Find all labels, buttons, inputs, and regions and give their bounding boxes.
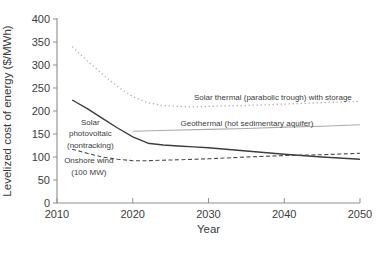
annotation-line: Onshore wind (64, 156, 113, 165)
x-tick-label: 2050 (348, 208, 372, 220)
y-tick-label: 0 (44, 197, 50, 209)
annotation-geothermal-label: Geothermal (hot sedimentary aquifer) (180, 119, 313, 128)
y-tick-label: 300 (32, 59, 50, 71)
annotation-line: Geothermal (hot sedimentary aquifer) (180, 119, 313, 128)
x-tick-label: 2030 (196, 208, 220, 220)
y-tick-label: 100 (32, 151, 50, 163)
annotation-solar-pv-label: Solarphotovoltaic(nontracking) (67, 118, 114, 150)
annotation-line: Solar thermal (parabolic trough) with st… (194, 93, 352, 102)
annotation-onshore-wind-label: Onshore wind(100 MW) (64, 156, 113, 177)
x-tick-label: 2020 (121, 208, 145, 220)
x-axis-title: Year (197, 223, 220, 235)
y-tick-label: 200 (32, 105, 50, 117)
y-axis-title: Levelized cost of energy ($/MWh) (1, 25, 13, 196)
annotation-line: (nontracking) (67, 141, 114, 150)
annotation-line: (100 MW) (71, 168, 106, 177)
x-tick-label: 2040 (272, 208, 296, 220)
y-tick-label: 400 (32, 13, 50, 25)
series-line-onshore-wind (72, 149, 360, 161)
y-tick-label: 50 (38, 174, 50, 186)
x-tick-label: 2010 (45, 208, 69, 220)
annotation-solar-thermal-label: Solar thermal (parabolic trough) with st… (194, 93, 352, 102)
y-tick-label: 250 (32, 82, 50, 94)
y-tick-label: 150 (32, 128, 50, 140)
annotation-line: photovoltaic (69, 129, 112, 138)
y-tick-label: 350 (32, 36, 50, 48)
chart: 0501001502002503003504002010202020302040… (0, 0, 385, 254)
chart-svg: 0501001502002503003504002010202020302040… (0, 0, 385, 254)
annotation-line: Solar (81, 118, 100, 127)
